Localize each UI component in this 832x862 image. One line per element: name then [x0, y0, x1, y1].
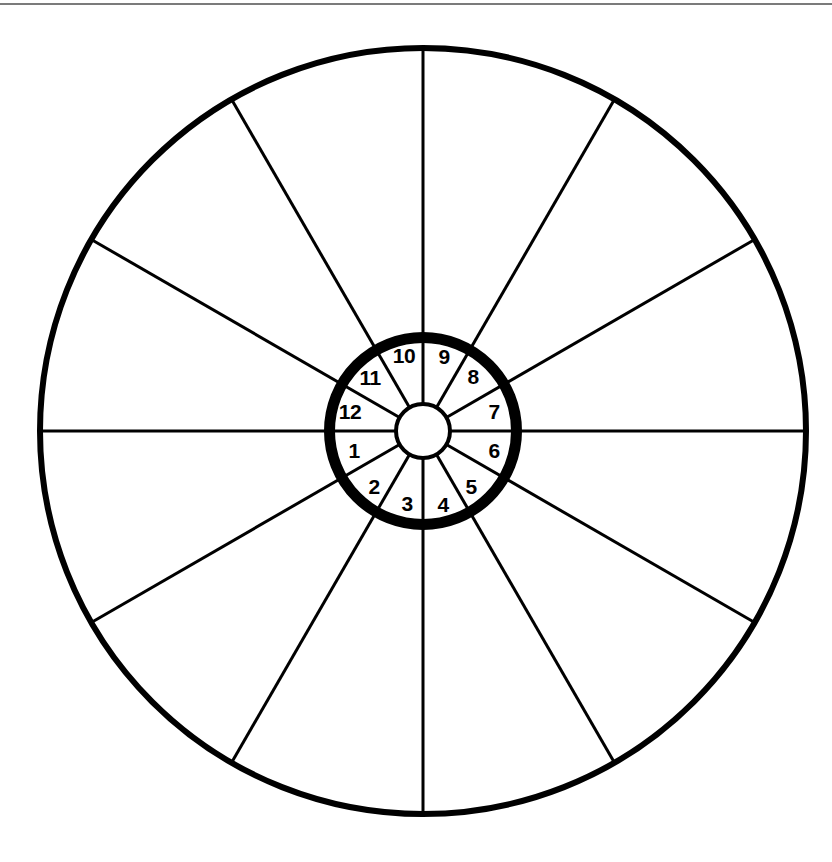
sector-label-10: 10 [393, 344, 415, 367]
sector-label-5: 5 [465, 475, 477, 498]
sector-label-9: 9 [438, 345, 449, 368]
sector-label-12: 12 [339, 400, 361, 423]
sector-label-1: 1 [348, 439, 360, 462]
radial-spoke-30deg [446, 240, 754, 418]
radial-spoke-240deg [232, 454, 410, 762]
sector-label-4: 4 [437, 493, 449, 516]
hub-circle [396, 404, 450, 458]
radial-spoke-150deg [91, 240, 399, 418]
sector-label-11: 11 [359, 366, 381, 389]
radial-spoke-120deg [232, 99, 410, 407]
sector-label-7: 7 [488, 400, 499, 423]
sector-label-2: 2 [368, 475, 379, 498]
sector-label-8: 8 [467, 365, 479, 388]
figure-root: 123456789101112 [0, 0, 832, 862]
wheel-diagram: 123456789101112 [0, 0, 832, 862]
radial-spoke-60deg [437, 99, 615, 407]
radial-spoke-330deg [446, 445, 754, 623]
hub-group [396, 404, 450, 458]
radial-spoke-300deg [437, 454, 615, 762]
sector-label-3: 3 [401, 492, 412, 515]
radial-spoke-210deg [91, 445, 399, 623]
sector-label-6: 6 [488, 439, 499, 462]
